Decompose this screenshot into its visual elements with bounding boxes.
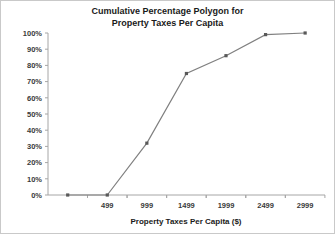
- data-point-markers: [66, 31, 307, 196]
- data-point-marker: [264, 33, 267, 36]
- data-point-marker: [106, 193, 109, 196]
- x-axis-tick-label: 499: [101, 201, 114, 210]
- x-axis-tick-label: 2499: [257, 201, 274, 210]
- data-point-marker: [66, 193, 69, 196]
- data-point-marker: [304, 31, 307, 34]
- y-axis-tick-label: 40%: [27, 126, 42, 135]
- x-axis-ticks: 4999991499199924992999: [87, 195, 324, 210]
- x-axis-tick-label: 999: [141, 201, 154, 210]
- y-axis-tick-label: 60%: [27, 94, 42, 103]
- y-axis: 0%10%20%30%40%50%60%70%80%90%100%: [23, 29, 48, 200]
- y-axis-tick-label: 100%: [23, 29, 43, 38]
- y-axis-tick-label: 30%: [27, 142, 42, 151]
- data-series-line: [68, 33, 305, 195]
- y-axis-tick-label: 70%: [27, 77, 42, 86]
- data-point-marker: [145, 142, 148, 145]
- x-axis-title: Property Taxes Per Capita ($): [130, 217, 241, 226]
- x-axis: 4999991499199924992999: [48, 195, 325, 210]
- y-axis-ticks: 0%10%20%30%40%50%60%70%80%90%100%: [23, 29, 48, 200]
- y-axis-tick-label: 80%: [27, 61, 42, 70]
- y-axis-tick-label: 20%: [27, 158, 42, 167]
- y-axis-tick-label: 0%: [31, 191, 42, 200]
- data-point-marker: [185, 72, 188, 75]
- chart-container: Cumulative Percentage Polygon for Proper…: [0, 0, 335, 234]
- x-axis-tick-label: 2999: [297, 201, 314, 210]
- x-axis-tick-label: 1999: [218, 201, 235, 210]
- y-axis-tick-label: 10%: [27, 175, 42, 184]
- y-axis-tick-label: 50%: [27, 110, 42, 119]
- y-axis-tick-label: 90%: [27, 45, 42, 54]
- plot-area: 0%10%20%30%40%50%60%70%80%90%100% 499999…: [0, 0, 335, 234]
- data-point-marker: [224, 54, 227, 57]
- x-axis-tick-label: 1499: [178, 201, 195, 210]
